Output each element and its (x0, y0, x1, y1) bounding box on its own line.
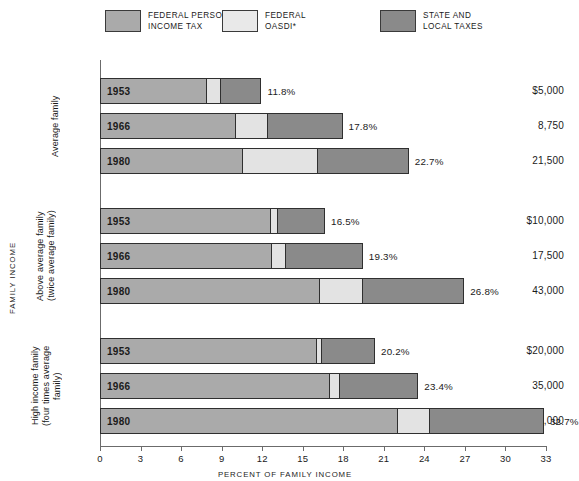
x-axis-tick-label: 24 (419, 453, 430, 464)
bar-year-label: 1966 (107, 121, 130, 132)
bar-total-label: 11.8% (267, 86, 295, 97)
x-axis-tick (465, 446, 466, 451)
bar-segment[interactable] (329, 374, 338, 398)
bar-year-label: 1980 (107, 286, 130, 297)
stacked-bar[interactable]: 1966 (100, 113, 343, 139)
x-axis-tick-label: 9 (219, 453, 224, 464)
bar-year-label: 1980 (107, 416, 130, 427)
group-label: High income family (four times average f… (30, 338, 62, 434)
bar-total-label: 19.3% (369, 251, 398, 262)
legend-label: STATE AND LOCAL TAXES (423, 10, 483, 32)
legend-label: FEDERAL OASDI* (265, 10, 306, 32)
stacked-bar[interactable]: 1980 (100, 278, 464, 304)
bar-segment[interactable] (101, 374, 329, 398)
bar-segment[interactable] (206, 79, 220, 103)
bar-total-label: 23.4% (424, 381, 453, 392)
bar-total-label: 16.5% (331, 216, 360, 227)
bar-row[interactable]: 198032.7% (100, 408, 576, 434)
bar-row[interactable]: 196617.8% (100, 113, 576, 139)
stacked-bar[interactable]: 1966 (100, 243, 363, 269)
x-axis-tick (222, 446, 223, 451)
x-axis-tick-label: 27 (459, 453, 470, 464)
x-axis-tick-label: 18 (338, 453, 349, 464)
group-label: Average family (48, 78, 62, 174)
bar-total-label: 32.7% (550, 416, 579, 427)
x-axis-line (100, 446, 546, 447)
bar-row[interactable]: 198022.7% (100, 148, 576, 174)
bar-segment[interactable] (362, 279, 463, 303)
group-label: Above average family (twice average fami… (30, 208, 62, 304)
bar-segment[interactable] (397, 409, 429, 433)
x-axis-tick-label: 15 (297, 453, 308, 464)
stacked-bar[interactable]: 1953 (100, 338, 375, 364)
bar-segment[interactable] (220, 79, 261, 103)
x-axis-tick (181, 446, 182, 451)
bar-total-label: 20.2% (381, 346, 410, 357)
stacked-bar[interactable]: 1966 (100, 373, 418, 399)
x-axis-tick-label: 6 (178, 453, 183, 464)
legend-swatch-icon (380, 10, 416, 32)
x-axis-tick-label: 21 (378, 453, 389, 464)
bar-row[interactable]: 195316.5% (100, 208, 576, 234)
y-axis-title: FAMILY INCOME (8, 242, 17, 314)
bar-segment[interactable] (339, 374, 417, 398)
stacked-bar[interactable]: 1980 (100, 148, 409, 174)
legend-item-federal-personal-income-tax: FEDERAL PERSONAL INCOME TAX (105, 10, 240, 32)
bar-segment[interactable] (101, 339, 316, 363)
x-axis-tick (141, 446, 142, 451)
legend-swatch-icon (105, 10, 141, 32)
bar-segment[interactable] (317, 149, 408, 173)
bar-segment[interactable] (270, 209, 277, 233)
bar-segment[interactable] (277, 209, 324, 233)
x-axis-tick-label: 0 (97, 453, 102, 464)
bar-row[interactable]: 196619.3% (100, 243, 576, 269)
bar-row[interactable]: 196623.4% (100, 373, 576, 399)
x-axis-tick (424, 446, 425, 451)
bar-year-label: 1966 (107, 251, 130, 262)
x-axis-tick (303, 446, 304, 451)
x-axis-tick-label: 12 (257, 453, 268, 464)
chart-legend: FEDERAL PERSONAL INCOME TAX FEDERAL OASD… (0, 0, 570, 52)
bar-segment[interactable] (271, 244, 285, 268)
x-axis-tick (262, 446, 263, 451)
bar-segment[interactable] (285, 244, 362, 268)
plot-area: 03691215182124273033 PERCENT OF FAMILY I… (0, 52, 570, 481)
bar-row[interactable]: 198026.8% (100, 278, 576, 304)
bar-segment[interactable] (429, 409, 543, 433)
legend-item-state-and-local-taxes: STATE AND LOCAL TAXES (380, 10, 483, 32)
x-axis-tick (384, 446, 385, 451)
bar-segment[interactable] (267, 114, 341, 138)
bar-year-label: 1953 (107, 216, 130, 227)
bar-year-label: 1980 (107, 156, 130, 167)
bar-total-label: 17.8% (349, 121, 378, 132)
bar-segment[interactable] (101, 279, 319, 303)
bar-row[interactable]: 195311.8% (100, 78, 576, 104)
x-axis-tick (100, 446, 101, 451)
x-axis-tick-label: 33 (541, 453, 552, 464)
bar-year-label: 1966 (107, 381, 130, 392)
legend-item-federal-oasdi: FEDERAL OASDI* (222, 10, 306, 32)
stacked-bar[interactable]: 1953 (100, 208, 325, 234)
bar-year-label: 1953 (107, 86, 130, 97)
bar-total-label: 26.8% (470, 286, 499, 297)
stacked-bar[interactable]: 1980 (100, 408, 544, 434)
legend-swatch-icon (222, 10, 258, 32)
x-axis-tick (546, 446, 547, 451)
x-axis-tick-label: 3 (138, 453, 143, 464)
bar-segment[interactable] (235, 114, 267, 138)
x-axis-title: PERCENT OF FAMILY INCOME (0, 470, 570, 479)
stacked-bar[interactable]: 1953 (100, 78, 261, 104)
bar-year-label: 1953 (107, 346, 130, 357)
bar-segment[interactable] (242, 149, 318, 173)
x-axis-tick (505, 446, 506, 451)
bar-total-label: 22.7% (415, 156, 444, 167)
x-axis-tick-label: 30 (500, 453, 511, 464)
bar-segment[interactable] (101, 409, 397, 433)
bar-segment[interactable] (319, 279, 362, 303)
bar-row[interactable]: 195320.2% (100, 338, 576, 364)
bar-segment[interactable] (321, 339, 374, 363)
x-axis-tick (343, 446, 344, 451)
